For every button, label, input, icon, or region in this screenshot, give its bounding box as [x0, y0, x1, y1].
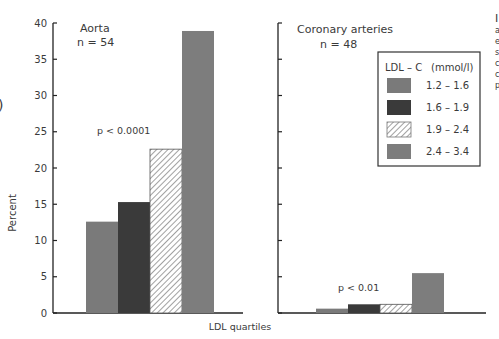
y-tick-label: 30: [34, 90, 47, 101]
aorta-p-value: p < 0.0001: [97, 125, 150, 136]
legend-label: 2.4 – 3.4: [426, 146, 469, 157]
bar: [118, 202, 150, 313]
coronary-bars: [316, 273, 444, 313]
y-tick-label: 10: [34, 235, 47, 246]
aorta-bars: [86, 31, 214, 313]
y-axis-label: Percent: [7, 194, 18, 232]
aorta-panel: 0510152025303540 Aorta n = 54 p < 0.0001: [34, 18, 243, 319]
legend-label: 1.2 – 1.6: [426, 80, 469, 91]
y-tick-label: 25: [34, 126, 47, 137]
bar: [182, 31, 214, 313]
coronary-n: n = 48: [320, 38, 357, 51]
bar: [316, 309, 348, 313]
legend-label: 1.9 – 2.4: [426, 124, 469, 135]
legend-swatch: [387, 144, 411, 159]
cropped-text-fragment: c: [495, 70, 499, 79]
bar: [150, 149, 182, 313]
cropped-text-fragment: s: [495, 48, 499, 57]
y-tick-label: 20: [34, 163, 47, 174]
y-tick-label: 15: [34, 199, 47, 210]
aorta-n: n = 54: [77, 36, 114, 49]
cropped-left-fragment: ): [0, 97, 3, 113]
cropped-text-fragment: a: [495, 26, 499, 35]
bar: [380, 304, 412, 313]
coronary-p-value: p < 0.01: [338, 282, 379, 293]
cropped-text-fragment: e: [495, 37, 499, 46]
legend: LDL – C (mmol/l) 1.2 – 1.61.6 – 1.91.9 –…: [378, 52, 480, 166]
y-tick-label: 40: [34, 18, 47, 29]
legend-title: LDL – C: [385, 62, 422, 73]
legend-swatch: [387, 78, 411, 93]
bar: [348, 304, 380, 313]
coronary-title: Coronary arteries: [297, 23, 393, 36]
cropped-text-fragment: I: [495, 12, 498, 25]
legend-unit: (mmol/l): [431, 62, 473, 73]
legend-swatch: [387, 122, 411, 137]
x-axis-label: LDL quartiles: [209, 321, 272, 332]
y-tick-label: 35: [34, 54, 47, 65]
aorta-title: Aorta: [80, 22, 110, 35]
legend-label: 1.6 – 1.9: [426, 102, 469, 113]
y-tick-label: 0: [41, 308, 47, 319]
chart-figure: ) Percent 0510152025303540 Aorta n = 54 …: [0, 0, 499, 339]
cropped-right-column: Iaesccp: [495, 12, 499, 90]
cropped-text-fragment: p: [495, 81, 499, 90]
cropped-text-fragment: c: [495, 59, 499, 68]
legend-swatch: [387, 100, 411, 115]
y-tick-label: 5: [41, 271, 47, 282]
bar: [412, 273, 444, 313]
bar: [86, 222, 118, 313]
